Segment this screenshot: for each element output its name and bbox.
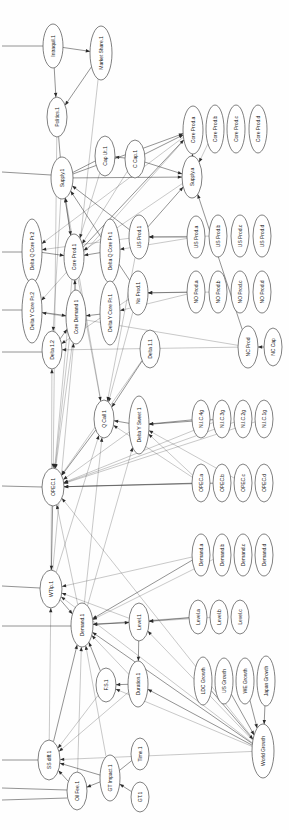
node-label: NC Prod xyxy=(245,337,251,356)
graph-node[interactable]: Duration.1 xyxy=(128,661,148,707)
graph-node[interactable]: N.I.C.4g xyxy=(192,400,210,438)
diagram-canvas: Intraquil.1Market Share.1Politics.1Cap U… xyxy=(0,0,289,830)
graph-node[interactable]: N.I.C.3g xyxy=(213,400,231,438)
graph-node[interactable]: Japan Growth xyxy=(257,656,275,706)
graph-node[interactable]: N.I.C.1g xyxy=(255,400,273,438)
graph-node[interactable]: Cap Ut.1 xyxy=(95,136,115,176)
graph-node[interactable]: F.S.1 xyxy=(96,668,116,702)
graph-node[interactable]: NC Prod xyxy=(238,326,258,368)
graph-node[interactable]: Level.1 xyxy=(129,603,149,641)
graph-node[interactable]: Demand.d xyxy=(255,534,273,576)
graph-node[interactable]: Level.c xyxy=(231,600,249,634)
influence-diagram-svg: Intraquil.1Market Share.1Politics.1Cap U… xyxy=(0,0,289,830)
node-label: Cap Ut.1 xyxy=(102,146,108,166)
node-label: Delta Q Core Pr.1 xyxy=(107,231,113,270)
graph-node[interactable]: Time.1 xyxy=(131,738,149,770)
node-label: Level.1 xyxy=(136,614,142,630)
graph-node[interactable]: WE Growth xyxy=(236,658,254,704)
graph-node[interactable]: US Prod.d xyxy=(253,215,271,257)
node-label: Delta Y Core Pr.2 xyxy=(29,292,35,330)
graph-node[interactable]: OPEC.d xyxy=(255,464,273,502)
node-label: Supply.a xyxy=(189,167,195,186)
graph-node[interactable]: Delta Y Sweet 1 xyxy=(129,396,149,454)
graph-node[interactable]: NO Prod.a xyxy=(187,271,205,313)
node-label: OPEC.1 xyxy=(50,478,56,496)
graph-node[interactable]: No Prod.1 xyxy=(128,271,148,315)
graph-node[interactable]: Intraquil.1 xyxy=(43,24,63,68)
graph-node[interactable]: GT.1 xyxy=(131,782,149,812)
node-label: Q Call 1 xyxy=(101,410,107,428)
graph-node[interactable]: NC Cap xyxy=(264,328,282,366)
graph-node[interactable]: C Cap.1 xyxy=(125,140,145,178)
graph-node[interactable]: Q Call 1 xyxy=(94,400,114,438)
graph-node[interactable]: Market Share.1 xyxy=(90,26,112,80)
node-label: No Prod.1 xyxy=(135,282,141,304)
graph-node[interactable]: Level.a xyxy=(189,600,207,634)
graph-node[interactable]: Supply.a xyxy=(182,156,202,198)
node-label: Duration.1 xyxy=(135,672,141,695)
graph-node[interactable]: Level.b xyxy=(210,600,228,634)
graph-node[interactable]: WTIp.1 xyxy=(40,570,62,608)
node-label: NC Cap xyxy=(270,338,276,356)
node-label: Delta Q Core Pr.2 xyxy=(29,231,35,270)
node-label: Core Prod.1 xyxy=(71,244,77,271)
graph-node[interactable]: Delta Y Core Pr.1 xyxy=(100,281,120,345)
graph-node[interactable]: US Growth xyxy=(215,658,233,704)
node-label: Supply.1 xyxy=(59,168,65,187)
graph-node[interactable]: Supply.1 xyxy=(51,157,73,199)
node-layer: Intraquil.1Market Share.1Politics.1Cap U… xyxy=(22,24,282,812)
graph-node[interactable]: Core Demand 1 xyxy=(66,290,86,344)
graph-node[interactable]: Delta Q Core Pr.1 xyxy=(100,219,120,283)
graph-node[interactable]: Core Prod.1 xyxy=(64,234,84,280)
graph-node[interactable]: GT Impact.1 xyxy=(100,755,120,801)
graph-node[interactable]: OPEC.c xyxy=(234,464,252,502)
graph-node[interactable]: NO Prod.c xyxy=(231,271,249,313)
node-label: N.I.C.1g xyxy=(261,410,267,428)
graph-node[interactable]: Core Prod.d xyxy=(249,105,267,153)
node-label: SS diff.1 xyxy=(46,751,52,770)
node-label: Delta Y Core Pr.1 xyxy=(107,294,113,332)
graph-node[interactable]: Oil Fee.1 xyxy=(67,772,87,810)
graph-node[interactable]: Demand.a xyxy=(192,534,210,576)
graph-node[interactable]: OPEC.1 xyxy=(42,468,64,506)
node-label: Demand.1 xyxy=(79,613,85,636)
graph-node[interactable]: US Prod.a xyxy=(187,216,205,258)
graph-node[interactable]: OPEC.b xyxy=(213,464,231,502)
node-label: World Growth xyxy=(260,736,266,766)
node-label: US Prod.c xyxy=(237,224,243,247)
graph-node[interactable]: Core Prod.c xyxy=(227,105,245,153)
node-label: NO Prod.a xyxy=(193,280,199,303)
node-label: LDC Growth xyxy=(200,667,206,694)
graph-node[interactable]: Demand.c xyxy=(234,534,252,576)
graph-node[interactable]: Delta 1.1 xyxy=(140,330,160,368)
graph-node[interactable]: US Prod.c xyxy=(231,215,249,257)
graph-node[interactable]: Demand.b xyxy=(213,534,231,576)
node-label: NO Prod.c xyxy=(237,280,243,303)
graph-node[interactable]: Core Prod.b xyxy=(206,105,224,153)
node-label: Intraquil.1 xyxy=(50,35,56,57)
node-label: Level.c xyxy=(237,609,243,625)
node-label: GT.1 xyxy=(137,792,143,803)
node-label: Japan Growth xyxy=(263,665,269,696)
graph-node[interactable]: OPEC.a xyxy=(192,464,210,502)
graph-node[interactable]: Politics.1 xyxy=(47,97,67,137)
node-label: Core Prod.a xyxy=(190,117,196,144)
graph-node[interactable]: Delta Q Core Pr.2 xyxy=(22,219,42,283)
graph-node[interactable]: Core Prod.a xyxy=(183,106,203,154)
graph-node[interactable]: World Growth xyxy=(252,724,274,778)
graph-node[interactable]: SS diff.1 xyxy=(38,740,60,780)
node-label: Level.b xyxy=(216,609,222,625)
graph-node[interactable]: US Prod.b xyxy=(209,215,227,257)
graph-node[interactable]: NO Prod.b xyxy=(209,271,227,313)
graph-node[interactable]: N.I.C.2g xyxy=(234,400,252,438)
graph-node[interactable]: Delta 1.2 xyxy=(42,331,62,369)
graph-node[interactable]: LDC Growth xyxy=(194,657,212,705)
node-label: NO Prod.b xyxy=(215,280,221,303)
node-label: C Cap.1 xyxy=(132,150,138,168)
node-label: Oil Fee.1 xyxy=(74,781,80,801)
graph-node[interactable]: NO Prod.d xyxy=(253,271,271,313)
node-label: Core Prod.d xyxy=(255,116,261,143)
graph-node[interactable]: Delta Y Core Pr.2 xyxy=(22,279,42,343)
graph-node[interactable]: Demand.1 xyxy=(71,603,93,647)
graph-node[interactable]: US Prod.1 xyxy=(129,215,149,259)
